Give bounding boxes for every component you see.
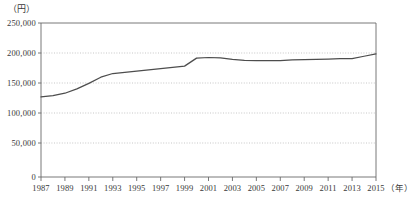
x-tick-label: 2011 [320,184,337,193]
x-axis-unit-label: （年） [386,184,412,193]
x-tick-label: 1993 [104,184,121,193]
x-tick-label: 2001 [200,184,217,193]
x-tick-label: 1991 [80,184,97,193]
x-tick-label: 2009 [296,184,313,193]
x-tick-label: 2005 [248,184,265,193]
x-tick-label: 2013 [343,184,360,193]
x-tick-label: 2015 [367,184,384,193]
x-tick-label: 1995 [128,184,145,193]
x-tick-label: 1999 [176,184,193,193]
x-tick-label: 1997 [152,184,169,193]
x-tick-label: 2003 [224,184,241,193]
x-tick-label: 1989 [56,184,73,193]
x-tick-label: 1987 [32,184,49,193]
x-tick-label: 2007 [272,184,289,193]
